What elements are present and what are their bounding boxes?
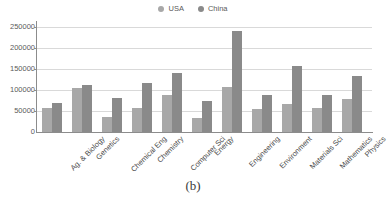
bar-usa-chemical-eng (102, 117, 112, 132)
bar-usa-genetics (72, 88, 82, 132)
bar-group-engineering (222, 27, 242, 132)
bar-usa-energy (192, 118, 202, 132)
bar-usa-mathematics (312, 108, 322, 132)
bar-group-chemistry (132, 27, 152, 132)
legend-item-china: China (198, 5, 228, 13)
bar-china-engineering (232, 31, 242, 132)
bar-china-environment (262, 95, 272, 132)
legend-label-usa: USA (168, 5, 183, 13)
chart-legend: USA China (0, 2, 386, 16)
bar-usa-ag-biology (42, 108, 52, 132)
legend-label-china: China (208, 5, 228, 13)
bar-usa-chemistry (132, 108, 142, 132)
bar-china-ag-biology (52, 103, 62, 132)
figure-caption: (b) (0, 178, 386, 194)
bar-group-materials-sci (282, 27, 302, 132)
bar-usa-engineering (222, 87, 232, 132)
bar-usa-materials-sci (282, 104, 292, 132)
bar-china-energy (202, 101, 212, 132)
x-axis-labels: Ag. & Biology Genetics Chemical Eng Chem… (0, 133, 386, 178)
y-tick-label-150000: 150000 (10, 65, 35, 73)
bar-usa-environment (252, 109, 262, 132)
bar-china-materials-sci (292, 66, 302, 132)
y-tick-label-250000: 250000 (10, 23, 35, 31)
bar-china-computer-sci (172, 73, 182, 132)
circle-dot-icon (198, 6, 204, 12)
bar-china-physics (352, 76, 362, 132)
y-tick-label-200000: 200000 (10, 44, 35, 52)
bar-group-environment (252, 27, 272, 132)
bar-group-chemical-eng (102, 27, 122, 132)
bar-china-genetics (82, 85, 92, 132)
bar-group-energy (192, 27, 212, 132)
y-tick-label-50000: 50000 (14, 107, 35, 115)
bar-usa-computer-sci (162, 95, 172, 132)
bar-group-physics (342, 27, 362, 132)
bar-group-genetics (72, 27, 92, 132)
bar-group-mathematics (312, 27, 332, 132)
circle-dot-icon (158, 6, 164, 12)
bar-group-computer-sci (162, 27, 182, 132)
bar-usa-physics (342, 99, 352, 132)
bar-group-ag-biology (42, 27, 62, 132)
y-tick-label-100000: 100000 (10, 86, 35, 94)
bar-china-mathematics (322, 95, 332, 132)
bar-china-chemistry (142, 83, 152, 132)
bar-china-chemical-eng (112, 98, 122, 132)
plot-area (37, 27, 372, 132)
legend-item-usa: USA (158, 5, 183, 13)
